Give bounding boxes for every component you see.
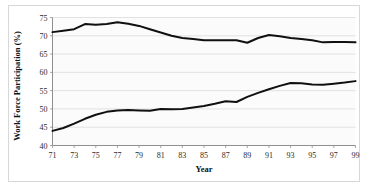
chart-figure: 7570656055504540 71737577798183858789919… xyxy=(0,0,369,196)
x-tick-label: 73 xyxy=(70,151,78,160)
y-axis-title: Work Force Participation (%) xyxy=(12,31,22,141)
x-tick-label: 91 xyxy=(265,151,273,160)
y-tick-label: 60 xyxy=(40,68,48,77)
y-tick-label: 50 xyxy=(40,105,48,114)
x-tick-label: 87 xyxy=(222,151,230,160)
y-tick-label: 40 xyxy=(40,142,48,151)
x-tick-label: 93 xyxy=(287,151,295,160)
x-tick-label: 77 xyxy=(113,151,121,160)
plot-background xyxy=(53,18,356,146)
y-tick-labels: 7570656055504540 xyxy=(40,14,48,151)
y-tick-label: 70 xyxy=(40,32,48,41)
x-tick-label: 83 xyxy=(178,151,186,160)
x-tick-label: 89 xyxy=(243,151,251,160)
x-tick-label: 75 xyxy=(92,151,100,160)
y-tick-label: 45 xyxy=(40,123,48,132)
y-tick-label: 75 xyxy=(40,14,48,23)
x-tick-label: 97 xyxy=(330,151,338,160)
x-tick-labels: 717375777981838587899193959799 xyxy=(49,151,360,160)
y-tick-label: 55 xyxy=(40,87,48,96)
x-tick-label: 99 xyxy=(352,151,360,160)
x-tick-label: 85 xyxy=(200,151,208,160)
x-axis-title: Year xyxy=(196,164,213,174)
x-tick-label: 79 xyxy=(135,151,143,160)
x-tick-label: 81 xyxy=(157,151,165,160)
y-tick-label: 65 xyxy=(40,50,48,59)
line-chart: 7570656055504540 71737577798183858789919… xyxy=(0,0,369,196)
x-tick-label: 95 xyxy=(308,151,316,160)
x-tick-label: 71 xyxy=(49,151,57,160)
